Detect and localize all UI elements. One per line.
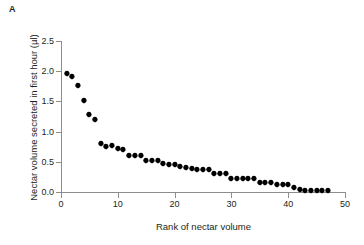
x-axis-tick-label: 20 [160, 200, 190, 209]
x-axis-tick [175, 193, 176, 198]
x-axis-tick [288, 193, 289, 198]
x-axis-tick-label: 50 [330, 200, 360, 209]
x-axis-tick [118, 193, 119, 198]
x-axis-tick [61, 193, 62, 198]
x-axis-tick-label: 10 [103, 200, 133, 209]
data-point [302, 189, 308, 195]
data-point [308, 189, 314, 195]
x-axis-tick-label: 0 [46, 200, 76, 209]
x-axis-tick [231, 193, 232, 198]
x-axis-tick [345, 193, 346, 198]
x-axis-title: Rank of nectar volume [61, 221, 346, 232]
data-point [319, 189, 325, 195]
panel-label: A [9, 5, 16, 14]
data-point [325, 189, 331, 195]
y-axis-title: Nectar volume secreted in first hour (µl… [28, 23, 39, 213]
x-axis-tick-label: 30 [216, 200, 246, 209]
figure-panel-a: A 0.00.51.01.52.02.5 01020304050 Rank of… [0, 0, 364, 245]
x-axis-tick-label: 40 [273, 200, 303, 209]
